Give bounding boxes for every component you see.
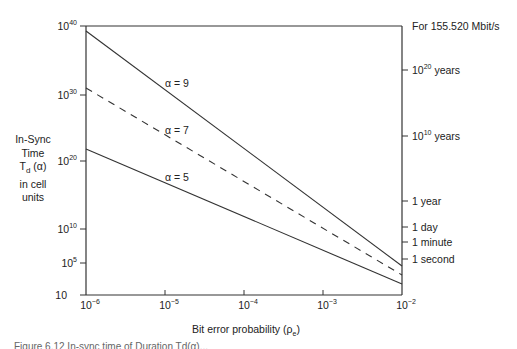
x-tick-labels: 10−6 10−5 10−4 10−3 10−2: [80, 298, 416, 311]
svg-text:1020 years: 1020 years: [412, 63, 460, 76]
svg-text:1010: 1010: [58, 222, 78, 235]
svg-text:10: 10: [55, 289, 67, 301]
svg-text:1 year: 1 year: [412, 195, 442, 207]
svg-text:1030: 1030: [58, 88, 78, 101]
y-right-axis-title: For 155.520 Mbit/s: [412, 20, 500, 32]
figure-caption: Figure 6.12 In-sync time of Duration Td(…: [14, 341, 208, 349]
svg-text:10−4: 10−4: [238, 298, 258, 311]
series-label-alpha-9: α = 9: [165, 77, 189, 89]
svg-text:10−6: 10−6: [80, 298, 100, 311]
chart-canvas: α = 9 α = 7 α = 5 1040 1030 1020 1010 10…: [0, 0, 517, 349]
series-alpha-5-line: [86, 149, 402, 284]
series-alpha-9-line: [86, 31, 402, 266]
series-label-alpha-5: α = 5: [165, 171, 189, 183]
svg-text:10−2: 10−2: [396, 298, 416, 311]
svg-text:10−5: 10−5: [159, 298, 179, 311]
svg-text:105: 105: [61, 256, 77, 269]
y-right-ticks: [402, 70, 408, 259]
y-axis-title: In-Sync Time Td (α) in cell units: [0, 133, 66, 205]
x-axis-title: Bit error probability (ρe): [192, 323, 300, 337]
series-alpha-7-line: [86, 88, 402, 275]
svg-text:1040: 1040: [58, 19, 78, 32]
svg-text:10−3: 10−3: [317, 298, 337, 311]
svg-text:1 second: 1 second: [412, 253, 455, 265]
x-ticks: [165, 290, 323, 295]
svg-text:1 minute: 1 minute: [412, 236, 452, 248]
y-left-ticks: [80, 95, 86, 263]
svg-text:1 day: 1 day: [412, 221, 438, 233]
svg-text:1010 years: 1010 years: [412, 129, 460, 142]
series-label-alpha-7: α = 7: [165, 124, 189, 136]
y-right-tick-labels: 1020 years 1010 years 1 year 1 day 1 min…: [412, 63, 460, 265]
